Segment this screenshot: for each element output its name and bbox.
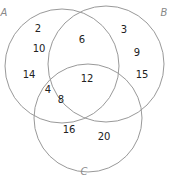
c-only-value: 20	[98, 131, 111, 142]
c-only-value: 16	[63, 124, 76, 135]
set-b-circle	[48, 6, 164, 122]
venn-diagram: A B C 2 10 14 6 3 9 15 12 4 8 16 20	[0, 0, 170, 177]
set-b-label: B	[161, 7, 168, 18]
abc-value: 12	[81, 73, 94, 84]
a-only-value: 14	[23, 69, 36, 80]
ac-value: 8	[58, 94, 64, 105]
b-only-value: 9	[134, 47, 140, 58]
b-only-value: 15	[136, 69, 149, 80]
b-only-value: 3	[121, 24, 127, 35]
a-only-value: 2	[35, 23, 41, 34]
set-c-label: C	[81, 166, 88, 177]
set-a-label: A	[0, 7, 8, 18]
ac-value: 4	[45, 84, 51, 95]
ab-value: 6	[79, 34, 85, 45]
a-only-value: 10	[33, 43, 46, 54]
